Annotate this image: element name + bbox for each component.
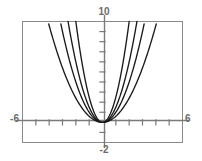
y-axis-max-label: 10 — [98, 7, 109, 17]
parabola-family-chart: 10 -2 -6 6 — [0, 0, 202, 161]
x-axis-min-label: -6 — [10, 114, 19, 124]
x-axis-max-label: 6 — [185, 114, 191, 124]
chart-plot-area — [0, 0, 202, 161]
y-axis-min-label: -2 — [100, 145, 109, 155]
